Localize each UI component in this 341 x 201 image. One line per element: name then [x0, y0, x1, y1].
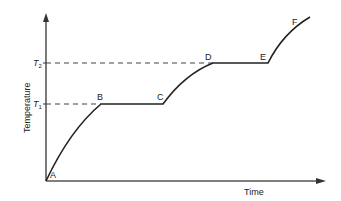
- point-label-c: C: [157, 92, 164, 102]
- x-axis-title: Time: [244, 187, 264, 197]
- y-axis-arrow-icon: [43, 13, 49, 22]
- x-axis-arrow-icon: [316, 178, 326, 184]
- t2-label: T2: [33, 58, 43, 69]
- point-label-d: D: [205, 52, 212, 62]
- heating-curve: [46, 17, 310, 181]
- point-label-b: B: [97, 92, 103, 102]
- heating-curve-diagram: A B C D E F T2 T1 Temperature Time: [0, 0, 341, 201]
- y-axis-title: Temperature: [22, 82, 32, 133]
- t1-label: T1: [33, 99, 43, 110]
- point-label-e: E: [260, 52, 266, 62]
- point-label-a: A: [50, 170, 56, 180]
- point-label-f: F: [292, 17, 298, 27]
